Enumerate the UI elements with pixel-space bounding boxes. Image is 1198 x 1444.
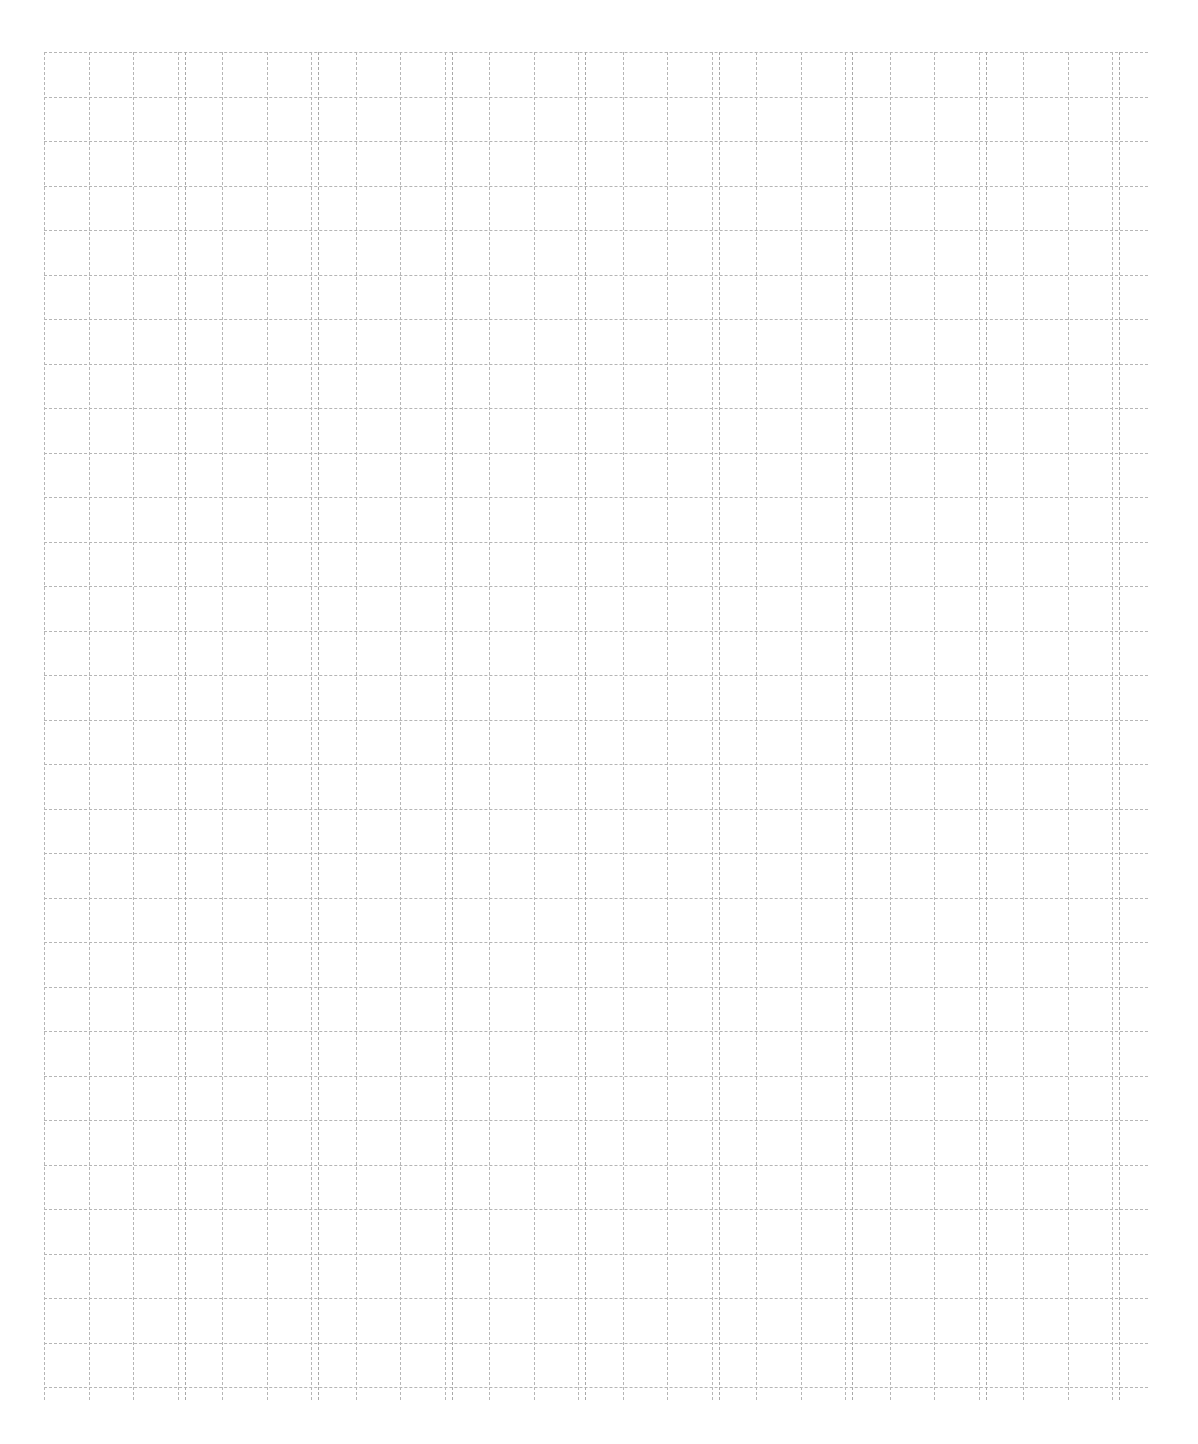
grid-line-vertical <box>578 52 579 1400</box>
grid-line-horizontal <box>44 186 1148 187</box>
grid-line-vertical <box>489 52 490 1400</box>
grid-line-horizontal <box>44 898 1148 899</box>
grid-line-vertical <box>667 52 668 1400</box>
grid-line-horizontal <box>44 1343 1148 1344</box>
grid-line-vertical <box>400 52 401 1400</box>
grid-line-horizontal <box>44 1076 1148 1077</box>
grid-line-horizontal <box>44 364 1148 365</box>
grid-line-vertical <box>445 52 446 1400</box>
grid-line-vertical-pair <box>1119 52 1120 1400</box>
grid-line-vertical <box>311 52 312 1400</box>
grid-line-horizontal <box>44 1387 1148 1388</box>
grid-line-vertical <box>845 52 846 1400</box>
grid-line-vertical <box>890 52 891 1400</box>
grid-line-vertical <box>356 52 357 1400</box>
grid-line-vertical-pair <box>719 52 720 1400</box>
grid-line-horizontal <box>44 1254 1148 1255</box>
grid-line-vertical <box>801 52 802 1400</box>
grid-line-horizontal <box>44 1209 1148 1210</box>
grid-line-vertical <box>44 52 45 1400</box>
letter-exemplar-row <box>44 52 1148 142</box>
grid-line-vertical <box>267 52 268 1400</box>
grid-line-horizontal <box>44 720 1148 721</box>
practice-grid <box>44 52 1148 1400</box>
grid-line-horizontal <box>44 675 1148 676</box>
grid-line-vertical <box>1112 52 1113 1400</box>
grid-line-horizontal <box>44 631 1148 632</box>
grid-line-vertical-pair <box>318 52 319 1400</box>
grid-line-vertical <box>1068 52 1069 1400</box>
grid-line-vertical <box>222 52 223 1400</box>
grid-line-horizontal <box>44 275 1148 276</box>
grid-line-horizontal <box>44 319 1148 320</box>
grid-line-horizontal <box>44 942 1148 943</box>
grid-line-horizontal <box>44 586 1148 587</box>
grid-line-horizontal <box>44 453 1148 454</box>
grid-line-vertical <box>979 52 980 1400</box>
grid-line-horizontal <box>44 987 1148 988</box>
grid-line-vertical <box>934 52 935 1400</box>
grid-line-horizontal <box>44 1298 1148 1299</box>
grid-line-vertical <box>1023 52 1024 1400</box>
grid-line-vertical <box>534 52 535 1400</box>
grid-line-vertical-pair <box>185 52 186 1400</box>
grid-line-horizontal <box>44 497 1148 498</box>
grid-line-horizontal <box>44 1165 1148 1166</box>
grid-line-horizontal <box>44 408 1148 409</box>
grid-line-vertical <box>623 52 624 1400</box>
grid-line-vertical-pair <box>852 52 853 1400</box>
grid-line-vertical <box>712 52 713 1400</box>
grid-line-vertical-pair <box>452 52 453 1400</box>
grid-line-vertical <box>756 52 757 1400</box>
grid-line-vertical <box>89 52 90 1400</box>
grid-line-horizontal <box>44 809 1148 810</box>
calligraphy-worksheet-page: Cursive Letter Practice Worksheet <box>0 0 1198 1444</box>
grid-line-horizontal <box>44 764 1148 765</box>
grid-line-horizontal <box>44 1120 1148 1121</box>
grid-line-vertical-pair <box>986 52 987 1400</box>
grid-line-horizontal <box>44 230 1148 231</box>
grid-line-horizontal <box>44 853 1148 854</box>
grid-line-horizontal <box>44 1031 1148 1032</box>
grid-line-vertical <box>178 52 179 1400</box>
grid-line-horizontal <box>44 542 1148 543</box>
grid-line-vertical <box>133 52 134 1400</box>
grid-line-vertical-pair <box>585 52 586 1400</box>
